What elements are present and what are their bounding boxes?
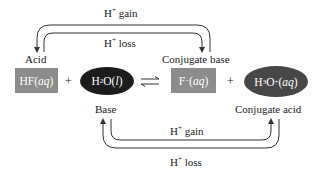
equilibrium-arrow-icon bbox=[141, 77, 159, 87]
f-minus-species-box: F−(aq) bbox=[171, 68, 216, 93]
bottom-h-loss-label: H+ loss bbox=[170, 157, 202, 168]
conjugate-base-label: Conjugate base bbox=[162, 54, 230, 65]
plus-sign: + bbox=[227, 75, 234, 87]
h3o-plus-species-ellipse: H3O+(aq) bbox=[244, 66, 308, 97]
top-h-loss-label: H+ loss bbox=[104, 38, 136, 49]
h2o-species-ellipse: H2O(l) bbox=[80, 67, 134, 95]
conjugate-acid-label: Conjugate acid bbox=[235, 104, 301, 115]
base-label: Base bbox=[95, 104, 116, 115]
hf-species-box: HF(aq) bbox=[15, 68, 58, 93]
top-h-gain-label: H+ gain bbox=[104, 8, 138, 19]
bottom-h-gain-label: H+ gain bbox=[170, 126, 204, 137]
plus-sign: + bbox=[65, 75, 72, 87]
acid-label: Acid bbox=[25, 54, 46, 65]
